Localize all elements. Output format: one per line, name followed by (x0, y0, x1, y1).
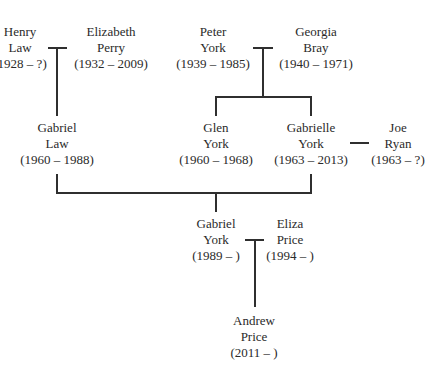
last-name: Price (266, 232, 314, 248)
life-dates: (1928 – ?) (0, 56, 47, 72)
person-eliza-price: Eliza Price (1994 – ) (266, 216, 314, 264)
person-elizabeth-perry: Elizabeth Perry (1932 – 2009) (74, 24, 148, 72)
life-dates: (1994 – ) (266, 248, 314, 264)
first-name: Joe (371, 120, 424, 136)
first-name: Gabriel (192, 216, 240, 232)
person-gabriel-york: Gabriel York (1989 – ) (192, 216, 240, 264)
first-name: Glen (179, 120, 253, 136)
last-name: Ryan (371, 136, 424, 152)
last-name: Law (20, 136, 94, 152)
life-dates: (1960 – 1968) (179, 152, 253, 168)
last-name: York (179, 136, 253, 152)
life-dates: (1960 – 1988) (20, 152, 94, 168)
person-peter-york: Peter York (1939 – 1985) (176, 24, 250, 72)
last-name: Perry (74, 40, 148, 56)
last-name: Bray (279, 40, 353, 56)
first-name: Eliza (266, 216, 314, 232)
person-glen-york: Glen York (1960 – 1968) (179, 120, 253, 168)
life-dates: (1940 – 1971) (279, 56, 353, 72)
person-joe-ryan: Joe Ryan (1963 – ?) (371, 120, 424, 168)
life-dates: (2011 – ) (230, 345, 277, 361)
first-name: Andrew (230, 313, 277, 329)
first-name: Peter (176, 24, 250, 40)
last-name: Law (0, 40, 47, 56)
last-name: York (274, 136, 348, 152)
person-georgia-bray: Georgia Bray (1940 – 1971) (279, 24, 353, 72)
first-name: Elizabeth (74, 24, 148, 40)
life-dates: (1963 – ?) (371, 152, 424, 168)
person-henry-law: Henry Law (1928 – ?) (0, 24, 47, 72)
life-dates: (1939 – 1985) (176, 56, 250, 72)
last-name: York (176, 40, 250, 56)
last-name: York (192, 232, 240, 248)
person-gabrielle-york: Gabrielle York (1963 – 2013) (274, 120, 348, 168)
first-name: Georgia (279, 24, 353, 40)
life-dates: (1989 – ) (192, 248, 240, 264)
life-dates: (1932 – 2009) (74, 56, 148, 72)
last-name: Price (230, 329, 277, 345)
first-name: Gabrielle (274, 120, 348, 136)
first-name: Gabriel (20, 120, 94, 136)
person-gabriel-law: Gabriel Law (1960 – 1988) (20, 120, 94, 168)
first-name: Henry (0, 24, 47, 40)
person-andrew-price: Andrew Price (2011 – ) (230, 313, 277, 361)
life-dates: (1963 – 2013) (274, 152, 348, 168)
